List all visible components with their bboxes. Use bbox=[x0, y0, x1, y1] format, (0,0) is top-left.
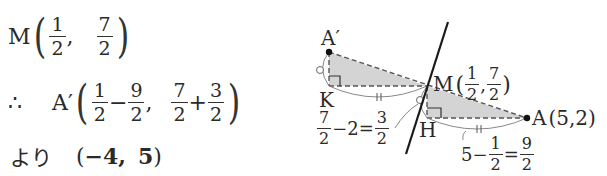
equal-circle-mark-1 bbox=[317, 67, 324, 74]
m-x-fraction: 1 2 bbox=[465, 66, 479, 103]
label-a-with-coords: A (5,2) bbox=[532, 106, 596, 130]
horizontal-diff-annotation: 5− 1 2 = 9 2 bbox=[461, 134, 535, 174]
hd-fraction-b: 9 2 bbox=[520, 136, 534, 173]
label-a: A bbox=[532, 106, 546, 130]
m-y-fraction: 7 2 bbox=[487, 66, 501, 103]
vertical-diff-annotation: 7 2 −2= 3 2 bbox=[316, 108, 390, 148]
label-a-prime: A′ bbox=[321, 28, 340, 48]
point-a bbox=[524, 115, 530, 121]
vd-fraction-b: 3 2 bbox=[375, 110, 389, 147]
label-h: H bbox=[419, 120, 436, 140]
label-a-coords: (5,2) bbox=[548, 106, 595, 130]
label-m-with-coords: M ( 1 2 , 7 2 ) bbox=[433, 66, 511, 102]
hd-fraction-a: 1 2 bbox=[489, 136, 503, 173]
vd-fraction-a: 7 2 bbox=[317, 110, 331, 147]
label-m: M bbox=[433, 72, 453, 96]
label-k: K bbox=[319, 90, 334, 110]
arc-k-m bbox=[329, 86, 427, 97]
